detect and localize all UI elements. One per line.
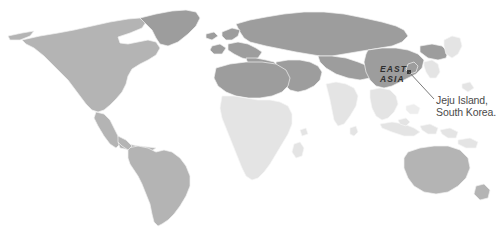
world-map-graphic — [0, 0, 504, 232]
landmass-south-asia — [326, 82, 358, 136]
landmass-north-africa — [214, 62, 290, 98]
world-map-figure: EAST ASIA Jeju Island, South Korea. — [0, 0, 504, 232]
landmass-middle-east — [276, 56, 374, 92]
jeju-island-callout-label: Jeju Island, South Korea. — [436, 95, 496, 118]
landmass-sub-saharan-africa — [220, 96, 304, 180]
landmass-north-america — [8, 10, 200, 152]
landmass-australia — [404, 138, 490, 200]
